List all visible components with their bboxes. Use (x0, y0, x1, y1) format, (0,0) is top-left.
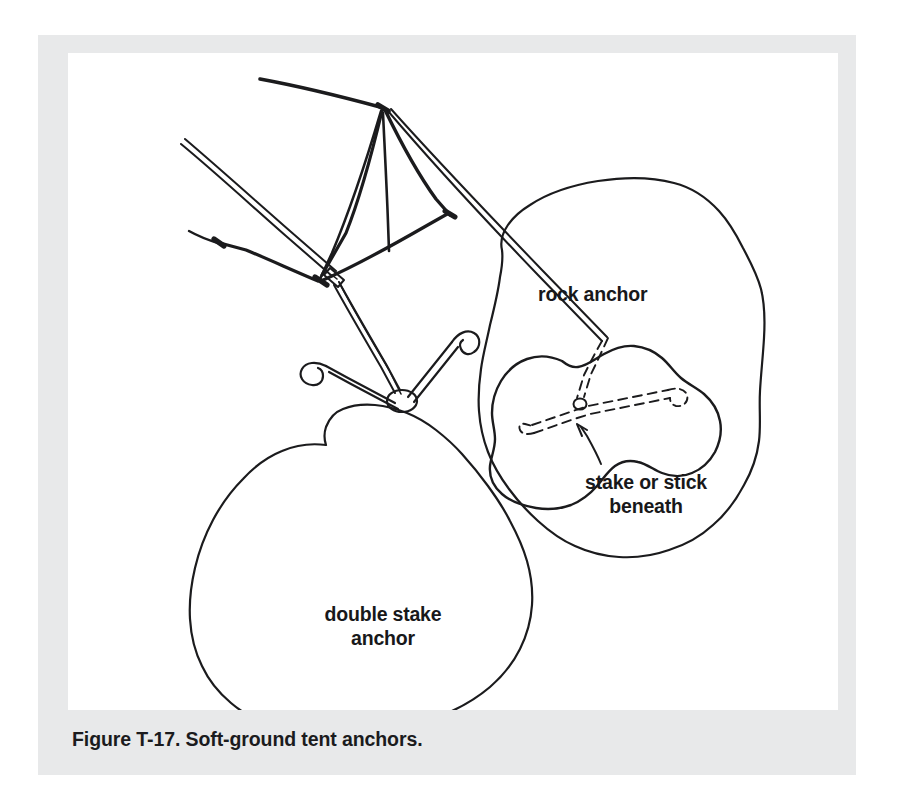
tent-stake-left (214, 239, 224, 246)
tent-pole-line (383, 113, 389, 251)
buried-rope-strand-a (577, 341, 602, 398)
artwork-plate: rock anchor stake or stick beneath doubl… (68, 53, 838, 710)
double-stake-ground-patch (190, 405, 533, 710)
double-stake-left-hook (301, 363, 326, 385)
double-stake-right-shank-2 (414, 347, 458, 402)
buried-stake-strand-b (534, 398, 670, 433)
double-stake-cord-left-outer (334, 285, 395, 393)
figure-panel: rock anchor stake or stick beneath doubl… (38, 35, 856, 775)
double-stake-guyline-strand-a (185, 139, 336, 271)
tent-base-edge-left (220, 243, 318, 281)
caption-band: Figure T-17. Soft-ground tent anchors. (38, 710, 856, 775)
buried-stake-hook-right (668, 389, 687, 407)
double-stake-right-shank (408, 342, 452, 397)
stake-label-pointer-arrow (581, 427, 601, 464)
double-stake-left-shank (326, 366, 395, 403)
tent-base-edge-right (321, 213, 449, 281)
double-stake-guyline-strand-b (181, 144, 332, 276)
tent-guyline-rear-left (320, 111, 381, 279)
tent-ridge-line (260, 79, 383, 108)
page-root: rock anchor stake or stick beneath doubl… (0, 0, 898, 812)
figure-caption: Figure T-17. Soft-ground tent anchors. (72, 728, 422, 751)
label-double-stake-anchor: double stake anchor (268, 603, 498, 651)
buried-stake-strand-a (532, 390, 668, 425)
label-stake-or-stick-beneath: stake or stick beneath (536, 471, 756, 519)
double-stake-cord-right-outer (341, 286, 401, 394)
label-rock-anchor: rock anchor (538, 283, 768, 307)
